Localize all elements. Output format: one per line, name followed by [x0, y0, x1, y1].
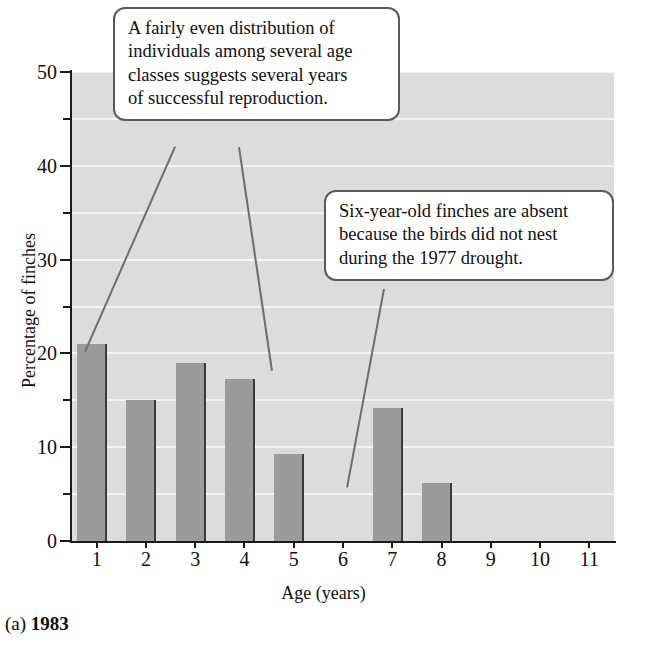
- x-tick: [539, 541, 541, 548]
- gridline: [72, 306, 614, 308]
- bar-age-4: [225, 379, 255, 541]
- y-tick-minor: [63, 212, 72, 214]
- y-axis-title: Percentage of finches: [19, 196, 40, 426]
- x-tick-label: 3: [175, 549, 215, 569]
- bar-age-2: [126, 400, 156, 541]
- x-tick: [342, 541, 344, 548]
- caption-year: 1983: [31, 613, 69, 634]
- y-tick-label: 10: [0, 437, 57, 457]
- x-tick: [145, 541, 147, 548]
- x-tick: [588, 541, 590, 548]
- annotation-callout-six-year-old-absent: Six-year-old finches are absent because …: [324, 190, 614, 281]
- bar-age-5: [274, 454, 304, 541]
- x-tick-label: 9: [471, 549, 511, 569]
- y-tick-major: [60, 165, 72, 167]
- x-tick: [293, 541, 295, 548]
- x-tick-label: 1: [77, 549, 117, 569]
- x-tick-label: 8: [422, 549, 462, 569]
- y-tick-minor: [63, 306, 72, 308]
- x-tick: [243, 541, 245, 548]
- x-tick-label: 6: [323, 549, 363, 569]
- bar-age-8: [422, 483, 452, 541]
- x-tick-label: 11: [569, 549, 609, 569]
- bar-age-3: [176, 363, 206, 541]
- annotation-line: classes suggests several years: [128, 64, 386, 87]
- x-axis-title: Age (years): [0, 583, 647, 604]
- y-tick-major: [60, 71, 72, 73]
- x-tick: [441, 541, 443, 548]
- x-tick-label: 2: [126, 549, 166, 569]
- bar-age-7: [373, 408, 403, 541]
- x-tick-label: 10: [520, 549, 560, 569]
- y-tick-label: 0: [0, 531, 57, 551]
- annotation-line: Six-year-old finches are absent: [339, 200, 600, 223]
- caption-prefix: (a): [5, 613, 26, 634]
- y-tick-label: 50: [0, 62, 57, 82]
- annotation-callout-even-distribution: A fairly even distribution of individual…: [113, 7, 400, 121]
- annotation-line: during the 1977 drought.: [339, 247, 600, 270]
- bar-age-1: [77, 344, 107, 541]
- plot-area: [72, 72, 614, 541]
- gridline: [72, 165, 614, 167]
- figure-root: 01020304050 1234567891011 Percentage of …: [0, 0, 647, 655]
- y-tick-minor: [63, 118, 72, 120]
- y-tick-major: [60, 259, 72, 261]
- annotation-line: individuals among several age: [128, 40, 386, 63]
- x-tick: [391, 541, 393, 548]
- y-tick-label: 40: [0, 156, 57, 176]
- x-tick: [96, 541, 98, 548]
- y-tick-minor: [63, 493, 72, 495]
- x-tick: [194, 541, 196, 548]
- x-tick-label: 4: [224, 549, 264, 569]
- y-tick-minor: [63, 399, 72, 401]
- y-tick-major: [60, 540, 72, 542]
- x-tick: [490, 541, 492, 548]
- y-tick-major: [60, 446, 72, 448]
- annotation-line: of successful reproduction.: [128, 87, 386, 110]
- y-tick-major: [60, 352, 72, 354]
- x-tick-label: 7: [372, 549, 412, 569]
- annotation-line: because the birds did not nest: [339, 223, 600, 246]
- gridline: [72, 352, 614, 354]
- figure-caption: (a) 1983: [5, 613, 69, 635]
- x-tick-label: 5: [274, 549, 314, 569]
- annotation-line: A fairly even distribution of: [128, 17, 386, 40]
